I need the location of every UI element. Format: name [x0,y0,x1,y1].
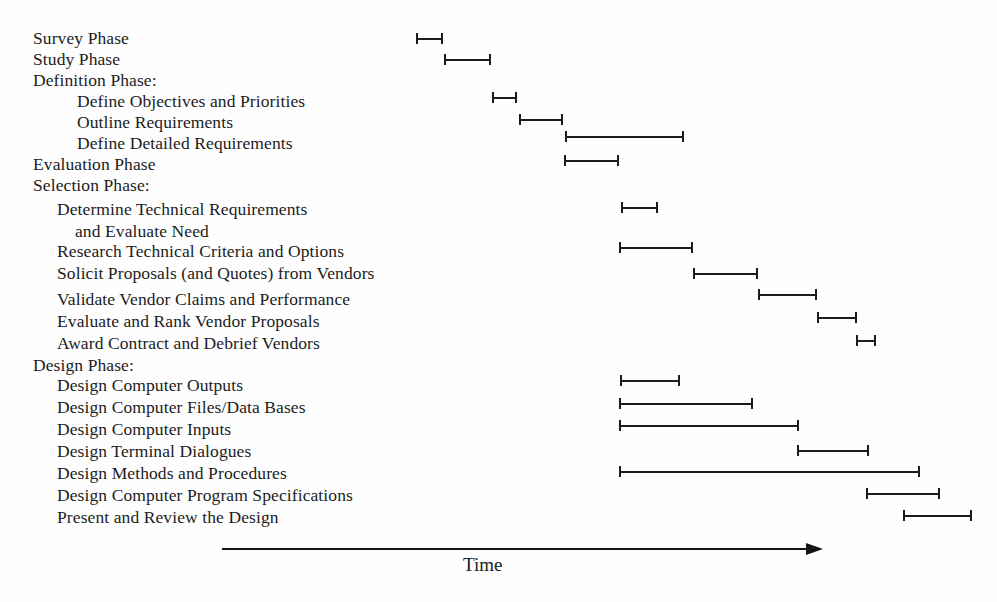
gantt-bar[interactable] [444,54,491,65]
task-label: Design Methods and Procedures [57,463,287,483]
gantt-bar[interactable] [797,445,869,456]
gantt-bar-end-cap [489,54,491,65]
task-label: Define Objectives and Priorities [77,91,305,111]
gantt-bar[interactable] [619,398,753,409]
task-label: Evaluate and Rank Vendor Proposals [57,311,320,331]
gantt-bar-start-cap [619,420,621,431]
gantt-bar-end-cap [656,202,658,213]
gantt-bar-end-cap [874,335,876,346]
gantt-chart: Survey PhaseStudy PhaseDefinition Phase:… [0,0,997,602]
gantt-bar-start-cap [564,155,566,166]
gantt-bar-end-cap [441,33,443,44]
gantt-bar-start-cap [619,466,621,477]
task-label: Present and Review the Design [57,507,279,527]
gantt-bar-end-cap [617,155,619,166]
gantt-bar-end-cap [970,510,972,521]
gantt-bar-end-cap [867,445,869,456]
gantt-bar-line [416,38,443,40]
gantt-bar-line [758,294,817,296]
task-label: Solicit Proposals (and Quotes) from Vend… [57,263,375,283]
gantt-bar[interactable] [758,289,817,300]
task-label: Research Technical Criteria and Options [57,241,344,261]
task-label: Design Terminal Dialogues [57,441,251,461]
gantt-bar[interactable] [693,268,758,279]
gantt-bar-line [444,59,491,61]
gantt-bar-end-cap [682,131,684,142]
gantt-bar-line [619,403,753,405]
gantt-bar-start-cap [416,33,418,44]
gantt-bar-start-cap [866,488,868,499]
gantt-bar-line [619,247,693,249]
gantt-bar-line [619,425,799,427]
gantt-bar[interactable] [620,375,680,386]
gantt-bar[interactable] [866,488,940,499]
task-label: Selection Phase: [33,175,150,195]
task-label: Design Phase: [33,355,134,375]
gantt-bar-start-cap [565,131,567,142]
gantt-bar-end-cap [918,466,920,477]
gantt-bar-end-cap [515,92,517,103]
gantt-bar-end-cap [815,289,817,300]
gantt-bar[interactable] [619,466,920,477]
task-label: Design Computer Program Specifications [57,485,353,505]
gantt-bar-start-cap [620,375,622,386]
gantt-bar-start-cap [903,510,905,521]
gantt-bar-line [620,380,680,382]
gantt-bar-line [492,97,517,99]
time-axis-arrowhead-icon [806,543,823,555]
task-label: Survey Phase [33,28,129,48]
gantt-bar-start-cap [856,335,858,346]
gantt-bar-start-cap [444,54,446,65]
gantt-bar-end-cap [855,312,857,323]
task-label: Design Computer Files/Data Bases [57,397,306,417]
gantt-bar-line [866,493,940,495]
gantt-bar-line [564,160,619,162]
gantt-bar-line [693,273,758,275]
gantt-bar[interactable] [619,420,799,431]
gantt-bar[interactable] [564,155,619,166]
gantt-bar-end-cap [561,114,563,125]
gantt-bar-line [856,340,876,342]
gantt-bar-start-cap [619,242,621,253]
gantt-bar[interactable] [416,33,443,44]
gantt-bar-end-cap [678,375,680,386]
time-axis-label: Time [463,554,502,576]
task-label: Determine Technical Requirements [57,199,307,219]
gantt-bar[interactable] [519,114,563,125]
gantt-bar-line [519,119,563,121]
gantt-bar[interactable] [492,92,517,103]
gantt-bar-end-cap [938,488,940,499]
gantt-bar[interactable] [621,202,658,213]
gantt-bar-start-cap [817,312,819,323]
task-label: Evaluation Phase [33,154,156,174]
gantt-bar-line [621,207,658,209]
gantt-bar-end-cap [691,242,693,253]
gantt-bar[interactable] [903,510,972,521]
gantt-bar-start-cap [492,92,494,103]
gantt-bar[interactable] [619,242,693,253]
time-axis [222,548,823,551]
gantt-bar-line [817,317,857,319]
gantt-bar[interactable] [856,335,876,346]
gantt-bar-start-cap [619,398,621,409]
gantt-bar-line [903,515,972,517]
task-label: Validate Vendor Claims and Performance [57,289,350,309]
gantt-bar-line [619,471,920,473]
gantt-bar-end-cap [751,398,753,409]
task-label: and Evaluate Need [75,221,209,241]
task-label: Outline Requirements [77,112,233,132]
gantt-bar-end-cap [797,420,799,431]
gantt-bar[interactable] [565,131,684,142]
gantt-bar-start-cap [693,268,695,279]
gantt-bar-end-cap [756,268,758,279]
gantt-bar-line [797,450,869,452]
task-label: Design Computer Outputs [57,375,243,395]
time-axis-line [222,548,806,550]
gantt-bar-start-cap [797,445,799,456]
gantt-bar-start-cap [758,289,760,300]
task-label: Design Computer Inputs [57,419,231,439]
task-label: Study Phase [33,49,120,69]
gantt-bar[interactable] [817,312,857,323]
task-label: Award Contract and Debrief Vendors [57,333,320,353]
gantt-bar-line [565,136,684,138]
